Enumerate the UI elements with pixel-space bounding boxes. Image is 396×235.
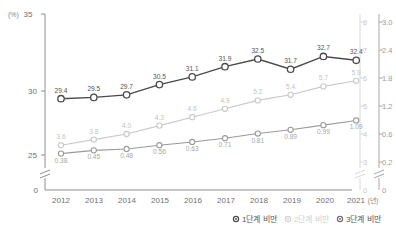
data-label-stage3-2016: 0.63 [186, 145, 199, 152]
data-label-stage2-2013: 3.8 [89, 128, 98, 135]
data-point-stage1-2016 [189, 74, 195, 80]
data-point-stage3-2019 [288, 127, 293, 132]
data-label-stage3-2015: 0.56 [153, 148, 166, 155]
right-inner-tick-18: 1.8 [382, 74, 392, 83]
right-outer-tick-4: 4 [363, 130, 367, 139]
data-label-stage3-2020: 0.99 [317, 128, 330, 135]
legend-label-stage2: 2단계 비만 [294, 214, 330, 224]
x-axis: 2012 2013 2014 2015 2016 2017 2018 2019 … [45, 190, 378, 205]
data-label-stage2-2015: 4.3 [155, 114, 164, 121]
data-label-stage1-2020: 32.7 [317, 44, 330, 51]
data-point-stage1-2021 [353, 57, 359, 63]
data-label-stage3-2014: 0.48 [120, 152, 133, 159]
left-axis-unit: (%) [8, 11, 19, 19]
data-label-stage2-2021: 5.9 [352, 69, 361, 76]
data-label-stage1-2021: 32.4 [350, 48, 363, 55]
data-label-stage3-2017: 0.71 [219, 141, 232, 148]
data-label-stage2-2018: 5.2 [253, 88, 262, 95]
right-inner-tick-30: 3.0 [382, 18, 392, 27]
data-label-stage2-2020: 5.7 [319, 74, 328, 81]
data-label-stage3-2019: 0.89 [284, 133, 297, 140]
data-label-stage2-2016: 4.6 [188, 105, 197, 112]
data-point-stage3-2015 [157, 143, 162, 148]
obesity-trend-chart: (%) 35 30 25 0 2012 2013 2014 2015 2016 … [0, 0, 396, 235]
data-point-stage2-2015 [157, 123, 162, 128]
data-label-stage1-2016: 31.1 [186, 65, 199, 72]
series-stage3: 0.380.450.480.560.630.710.810.890.991.09 [55, 118, 363, 164]
series-line-stage3 [61, 120, 356, 153]
data-point-stage3-2014 [124, 146, 129, 151]
data-label-stage1-2014: 29.7 [120, 83, 133, 90]
data-point-stage2-2021 [354, 78, 359, 83]
right-inner-tick-12: 1.2 [382, 102, 392, 111]
data-point-stage2-2012 [58, 143, 63, 148]
data-point-stage3-2021 [354, 118, 359, 123]
right-outer-tick-0: 0 [363, 186, 367, 195]
legend-label-stage3: 3단계 비만 [346, 214, 382, 224]
legend-item-stage2[interactable]: 2단계 비만 [285, 214, 329, 224]
data-point-stage1-2019 [287, 66, 293, 72]
x-tick-2015: 2015 [151, 196, 169, 205]
data-label-stage1-2017: 31.9 [219, 55, 232, 62]
data-label-stage3-2012: 0.38 [55, 157, 68, 164]
data-point-stage1-2017 [222, 63, 228, 69]
data-point-stage2-2016 [190, 115, 195, 120]
right-outer-tick-8: 8 [363, 18, 367, 27]
right-outer-tick-3: 3 [363, 158, 367, 167]
left-axis-tick-35: 35 [24, 10, 33, 19]
x-tick-2016: 2016 [184, 196, 202, 205]
chart-svg: (%) 35 30 25 0 2012 2013 2014 2015 2016 … [0, 0, 396, 235]
data-point-stage3-2012 [58, 151, 63, 156]
right-inner-tick-24: 2.4 [382, 46, 392, 55]
x-tick-2013: 2013 [85, 196, 103, 205]
data-label-stage1-2015: 30.5 [153, 73, 166, 80]
data-point-stage1-2020 [320, 53, 326, 59]
left-axis-tick-25: 25 [28, 151, 37, 160]
x-axis-unit: (년) [368, 196, 379, 205]
data-label-stage2-2019: 5.4 [286, 83, 295, 90]
data-point-stage2-2014 [124, 131, 129, 136]
x-tick-2014: 2014 [118, 196, 136, 205]
left-axis: (%) 35 30 25 0 [8, 10, 50, 195]
data-point-stage3-2020 [321, 123, 326, 128]
left-axis-tick-30: 30 [28, 87, 37, 96]
series-line-stage1 [61, 56, 356, 98]
data-label-stage1-2012: 29.4 [55, 87, 68, 94]
x-tick-2019: 2019 [283, 196, 301, 205]
series-stage1: 29.429.529.730.531.131.932.531.732.732.4 [55, 44, 363, 101]
data-label-stage1-2018: 32.5 [251, 47, 264, 54]
data-point-stage3-2013 [91, 148, 96, 153]
data-point-stage2-2020 [321, 84, 326, 89]
left-axis-tick-0: 0 [34, 186, 39, 195]
data-label-stage1-2013: 29.5 [87, 85, 100, 92]
data-point-stage1-2012 [58, 95, 64, 101]
legend-item-stage1[interactable]: 1단계 비만 [233, 214, 277, 224]
legend-label-stage1: 1단계 비만 [242, 214, 278, 224]
data-point-stage1-2013 [91, 94, 97, 100]
chart-legend: 1단계 비만 2단계 비만 3단계 비만 [233, 214, 381, 224]
data-point-stage3-2016 [190, 139, 195, 144]
data-label-stage3-2021: 1.09 [350, 123, 363, 130]
right-outer-tick-6: 6 [363, 74, 367, 83]
right-outer-axis: 8 7 6 5 4 3 0 [355, 14, 367, 195]
legend-item-stage3[interactable]: 3단계 비만 [337, 214, 381, 224]
x-tick-2012: 2012 [52, 196, 70, 205]
data-point-stage2-2019 [288, 92, 293, 97]
plot-area: 3.63.84.04.34.64.95.25.45.75.90.380.450.… [55, 44, 363, 163]
right-inner-axis: 3.0 2.4 1.8 1.2 0.6 0.2 0 [374, 14, 392, 195]
data-point-stage2-2013 [91, 137, 96, 142]
data-label-stage3-2018: 0.81 [251, 137, 264, 144]
right-inner-tick-06: 0.6 [382, 130, 392, 139]
data-label-stage1-2019: 31.7 [284, 57, 297, 64]
right-outer-tick-7: 7 [363, 46, 367, 55]
series-line-stage2 [61, 81, 356, 145]
data-point-stage1-2014 [123, 92, 129, 98]
data-label-stage3-2013: 0.45 [87, 153, 100, 160]
x-tick-2017: 2017 [217, 196, 235, 205]
right-outer-tick-5: 5 [363, 102, 367, 111]
data-label-stage2-2014: 4.0 [122, 122, 131, 129]
data-point-stage2-2017 [222, 106, 227, 111]
x-tick-2018: 2018 [250, 196, 268, 205]
data-point-stage1-2018 [255, 56, 261, 62]
series-stage2: 3.63.84.04.34.64.95.25.45.75.9 [56, 69, 361, 148]
